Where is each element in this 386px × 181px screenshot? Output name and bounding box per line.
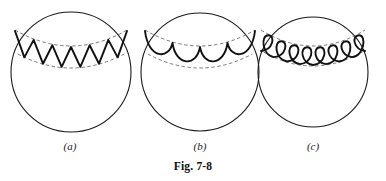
- lower-dashed-latitude-arc: [18, 54, 124, 68]
- figure-container: (a) (b) (c) Fig. 7-8: [0, 0, 386, 181]
- sphere-outline: [11, 12, 131, 132]
- sphere-outline: [258, 17, 368, 127]
- lower-dashed-latitude-arc: [148, 54, 253, 68]
- sawtooth-zigzag-wave: [15, 31, 127, 67]
- figure-caption: Fig. 7-8: [0, 160, 386, 172]
- panel-label-a: (a): [50, 141, 90, 152]
- sphere-outline: [141, 13, 259, 131]
- figure-drawing-canvas: [0, 0, 386, 181]
- panel-c-sphere-loops: [258, 17, 368, 127]
- panel-a-sphere-zigzag: [11, 12, 131, 132]
- coiled-loop-wave: [261, 35, 365, 65]
- panel-b-sphere-scallop: [141, 13, 259, 131]
- upper-dashed-latitude-arc: [145, 30, 255, 46]
- scalloped-arc-wave: [145, 31, 255, 61]
- panel-label-b: (b): [180, 141, 220, 152]
- panel-label-c: (c): [293, 141, 333, 152]
